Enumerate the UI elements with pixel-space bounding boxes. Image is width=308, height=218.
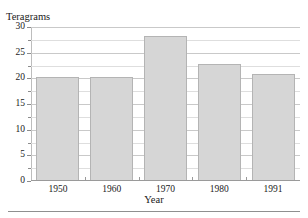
x-axis-title: Year (0, 194, 308, 205)
bar (36, 77, 79, 181)
bar (252, 74, 295, 181)
plot-area: 051015202530 19501960197019801991 (31, 27, 300, 181)
x-axis-baseline (31, 180, 300, 181)
x-axis-tick-label: 1980 (192, 184, 246, 194)
bottom-rule (8, 211, 300, 212)
y-axis-tick-label: 0 (20, 176, 25, 186)
y-axis-tick-label: 15 (16, 99, 26, 109)
chart-figure: I Teragrams 051015202530 195019601970198… (0, 0, 308, 218)
bar (198, 64, 241, 181)
bars-group (31, 27, 300, 181)
y-axis-tick-label: 5 (20, 151, 25, 161)
x-axis-tick-label: 1991 (246, 184, 300, 194)
x-axis-tick (85, 177, 86, 181)
y-axis-tick-label: 10 (16, 125, 26, 135)
x-axis-tick (192, 177, 193, 181)
y-axis-label: Teragrams (6, 11, 50, 23)
x-axis-tick-label: 1950 (31, 184, 85, 194)
y-axis-tick-label: 30 (16, 22, 26, 32)
bar (144, 36, 187, 181)
x-axis-tick (246, 177, 247, 181)
x-axis-tick-label: 1960 (85, 184, 139, 194)
x-axis-tick-label: 1970 (139, 184, 193, 194)
x-axis-tick (139, 177, 140, 181)
y-axis-tick (27, 181, 31, 182)
y-axis-tick-label: 25 (16, 48, 26, 58)
bar (90, 77, 133, 181)
y-axis-tick-label: 20 (16, 74, 26, 84)
